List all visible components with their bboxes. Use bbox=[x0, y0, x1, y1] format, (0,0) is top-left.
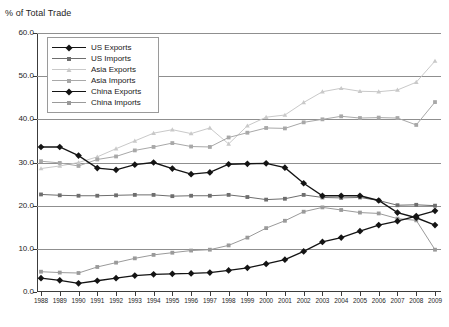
data-point-marker bbox=[357, 228, 364, 235]
legend-swatch-icon bbox=[52, 86, 86, 97]
data-point-marker bbox=[207, 126, 212, 130]
data-point-marker bbox=[95, 194, 99, 198]
x-tick-mark bbox=[435, 292, 436, 296]
legend-label: US Imports bbox=[91, 54, 131, 63]
data-point-marker bbox=[170, 141, 174, 145]
data-point-marker bbox=[302, 210, 306, 214]
data-point-marker bbox=[319, 239, 326, 246]
x-tick-mark bbox=[154, 292, 155, 296]
x-tick-mark bbox=[360, 292, 361, 296]
data-point-marker bbox=[131, 161, 138, 168]
data-point-marker bbox=[433, 248, 437, 252]
data-point-marker bbox=[58, 193, 62, 197]
data-point-marker bbox=[283, 219, 287, 223]
chart-container: % of Total Trade 19881989199019911992199… bbox=[0, 0, 449, 327]
legend-item-china-exports[interactable]: China Exports bbox=[52, 86, 153, 97]
data-point-marker bbox=[56, 277, 63, 284]
series-line bbox=[41, 211, 435, 284]
data-point-marker bbox=[264, 226, 268, 230]
series-china-imports bbox=[39, 205, 437, 274]
series-china-exports bbox=[38, 208, 439, 287]
data-point-marker bbox=[189, 145, 193, 149]
y-tick-label: 60.0 bbox=[4, 28, 34, 37]
data-point-marker bbox=[133, 256, 137, 260]
y-tick-label: 20.0 bbox=[4, 201, 34, 210]
legend-item-us-imports[interactable]: US Imports bbox=[52, 53, 153, 64]
data-point-marker bbox=[77, 194, 81, 198]
data-point-marker bbox=[169, 165, 176, 172]
data-point-marker bbox=[433, 100, 437, 104]
data-point-marker bbox=[263, 160, 270, 167]
data-point-marker bbox=[67, 67, 72, 71]
y-tick-label: 40.0 bbox=[4, 114, 34, 123]
legend-item-us-exports[interactable]: US Exports bbox=[52, 42, 153, 53]
data-point-marker bbox=[302, 120, 306, 124]
data-point-marker bbox=[58, 161, 62, 165]
legend-label: Asia Exports bbox=[91, 65, 136, 74]
data-point-marker bbox=[244, 264, 251, 271]
data-point-marker bbox=[302, 193, 306, 197]
data-point-marker bbox=[264, 126, 268, 130]
data-point-marker bbox=[114, 261, 118, 265]
data-point-marker bbox=[264, 198, 268, 202]
data-point-marker bbox=[38, 144, 45, 151]
x-tick-mark bbox=[191, 292, 192, 296]
data-point-marker bbox=[394, 209, 401, 216]
data-point-marker bbox=[114, 155, 118, 159]
x-tick-mark bbox=[247, 292, 248, 296]
data-point-marker bbox=[227, 243, 231, 247]
data-point-marker bbox=[375, 197, 382, 204]
x-tick-mark bbox=[229, 292, 230, 296]
legend-swatch-icon bbox=[52, 42, 86, 53]
data-point-marker bbox=[58, 271, 62, 275]
data-point-marker bbox=[152, 145, 156, 149]
x-tick-mark bbox=[341, 292, 342, 296]
data-point-marker bbox=[433, 59, 438, 63]
chart-legend: US ExportsUS ImportsAsia ExportsAsia Imp… bbox=[47, 37, 159, 113]
legend-label: Asia Imports bbox=[91, 76, 135, 85]
x-tick-mark bbox=[79, 292, 80, 296]
data-point-marker bbox=[189, 194, 193, 198]
data-point-marker bbox=[300, 248, 307, 255]
data-point-marker bbox=[375, 222, 382, 229]
x-tick-mark bbox=[416, 292, 417, 296]
x-tick-mark bbox=[97, 292, 98, 296]
legend-item-asia-imports[interactable]: Asia Imports bbox=[52, 75, 153, 86]
data-point-marker bbox=[150, 271, 157, 278]
legend-item-asia-exports[interactable]: Asia Exports bbox=[52, 64, 153, 75]
legend-label: China Imports bbox=[91, 98, 141, 107]
data-point-marker bbox=[66, 44, 73, 51]
data-point-marker bbox=[170, 251, 174, 255]
data-point-marker bbox=[208, 248, 212, 252]
legend-item-china-imports[interactable]: China Imports bbox=[52, 97, 153, 108]
data-point-marker bbox=[131, 272, 138, 279]
data-point-marker bbox=[358, 116, 362, 120]
legend-swatch-icon bbox=[52, 97, 86, 108]
data-point-marker bbox=[432, 222, 439, 229]
data-point-marker bbox=[56, 144, 63, 151]
x-tick-mark bbox=[285, 292, 286, 296]
data-point-marker bbox=[170, 127, 175, 131]
x-tick-label: 2009 bbox=[422, 297, 448, 304]
data-point-marker bbox=[227, 193, 231, 197]
legend-swatch-icon bbox=[52, 75, 86, 86]
data-point-marker bbox=[321, 205, 325, 209]
data-point-marker bbox=[414, 203, 418, 207]
data-point-marker bbox=[338, 234, 345, 241]
legend-swatch-icon bbox=[52, 53, 86, 64]
data-point-marker bbox=[227, 136, 231, 140]
data-point-marker bbox=[339, 114, 343, 118]
y-tick-label: 0.0 bbox=[4, 287, 34, 296]
data-point-marker bbox=[67, 57, 71, 61]
x-tick-mark bbox=[379, 292, 380, 296]
y-tick-label: 30.0 bbox=[4, 158, 34, 167]
x-tick-mark bbox=[172, 292, 173, 296]
data-point-marker bbox=[67, 101, 71, 105]
x-tick-mark bbox=[41, 292, 42, 296]
data-point-marker bbox=[321, 117, 325, 121]
data-point-marker bbox=[169, 271, 176, 278]
y-tick-label: 50.0 bbox=[4, 71, 34, 80]
data-point-marker bbox=[283, 197, 287, 201]
data-point-marker bbox=[189, 249, 193, 253]
x-tick-mark bbox=[397, 292, 398, 296]
